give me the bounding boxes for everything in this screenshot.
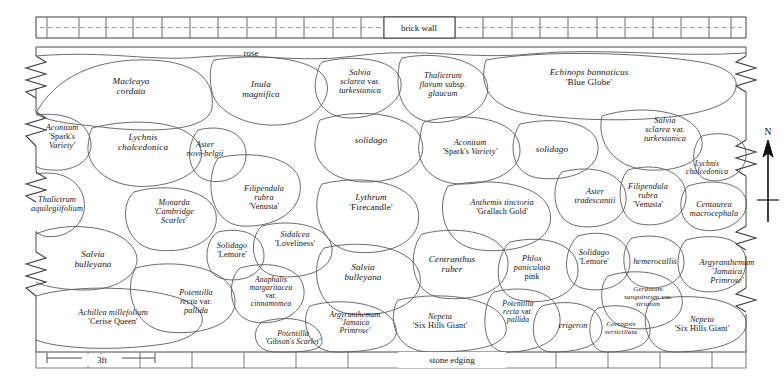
brick-wall-label: brick wall	[401, 23, 437, 33]
stone-edging-label: stone edging	[429, 355, 475, 365]
compass-north-label: N	[765, 127, 772, 137]
garden-planting-plan: brick wall rose stone edging 3ft N Aconi…	[0, 0, 784, 386]
compass-graphic	[757, 140, 779, 222]
scale-bar-label: 3ft	[97, 355, 107, 365]
bed-outline	[36, 47, 746, 352]
stone-edging-graphic	[36, 352, 746, 368]
brick-wall-graphic	[36, 17, 746, 38]
planting-drifts	[36, 52, 746, 352]
break-symbols	[26, 56, 756, 312]
rose-label: rose	[244, 48, 259, 58]
plan-drawing	[0, 0, 784, 386]
